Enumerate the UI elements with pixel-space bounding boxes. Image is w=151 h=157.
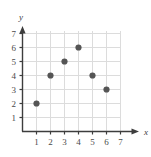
x-axis-arrowhead: [132, 128, 140, 134]
plot-canvas: 1 2 3 4 5 6 7 1 2 3 4 5 6 7 y x: [0, 0, 151, 157]
y-tick-label-5: 5: [12, 57, 17, 67]
data-point: [89, 72, 95, 78]
x-axis: [22, 128, 139, 134]
y-tick-label-1: 1: [12, 113, 17, 123]
y-tick-labels: 1 2 3 4 5 6 7: [12, 29, 17, 123]
data-point: [75, 44, 81, 50]
x-tick-label-1: 1: [34, 137, 39, 147]
x-tick-label-2: 2: [48, 137, 53, 147]
y-tick-label-2: 2: [12, 99, 17, 109]
data-point: [61, 58, 67, 64]
data-point: [103, 86, 109, 92]
y-axis-label: y: [18, 12, 23, 22]
y-axis: [19, 26, 25, 132]
y-tick-label-7: 7: [12, 29, 17, 39]
x-tick-label-4: 4: [76, 137, 81, 147]
x-tick-labels: 1 2 3 4 5 6 7: [34, 137, 123, 147]
y-tick-label-3: 3: [12, 85, 17, 95]
x-tick-label-6: 6: [104, 137, 109, 147]
y-tick-label-4: 4: [12, 71, 17, 81]
data-point: [33, 100, 39, 106]
y-tick-label-6: 6: [12, 43, 17, 53]
x-tick-label-5: 5: [90, 137, 95, 147]
y-axis-arrowhead: [19, 26, 25, 34]
x-tick-label-3: 3: [62, 137, 67, 147]
scatter-plot-figure: 1 2 3 4 5 6 7 1 2 3 4 5 6 7 y x: [0, 0, 151, 157]
data-point: [47, 72, 53, 78]
x-tick-label-7: 7: [118, 137, 123, 147]
x-axis-label: x: [143, 127, 148, 137]
